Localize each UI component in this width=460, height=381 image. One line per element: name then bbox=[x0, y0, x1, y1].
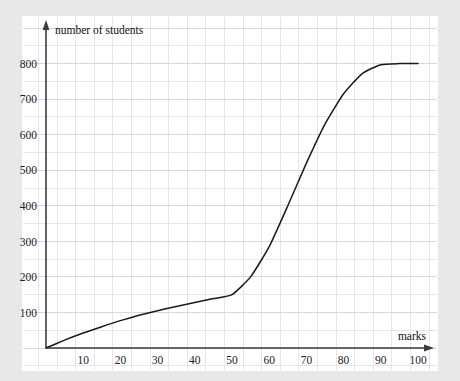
x-tick-label: 10 bbox=[77, 354, 89, 366]
x-tick-label: 90 bbox=[375, 354, 387, 366]
y-tick-label: 300 bbox=[20, 236, 38, 248]
y-axis-arrow bbox=[43, 20, 50, 30]
y-tick-label: 400 bbox=[20, 200, 38, 212]
y-tick-label: 100 bbox=[20, 307, 38, 319]
x-tick-label: 30 bbox=[152, 354, 164, 366]
x-axis-title: marks bbox=[398, 330, 427, 342]
y-tick-label: 200 bbox=[20, 271, 38, 283]
y-tick-label: 500 bbox=[20, 164, 38, 176]
y-tick-label: 700 bbox=[20, 93, 38, 105]
x-tick-label: 70 bbox=[301, 354, 313, 366]
axes bbox=[43, 20, 434, 351]
y-tick-label: 600 bbox=[20, 129, 38, 141]
y-tick-label: 800 bbox=[20, 58, 38, 70]
x-tick-label: 20 bbox=[115, 354, 127, 366]
x-tick-label: 80 bbox=[338, 354, 350, 366]
x-tick-label: 100 bbox=[409, 354, 427, 366]
grid-minor bbox=[23, 17, 437, 370]
x-tick-labels: 102030405060708090100 bbox=[77, 354, 426, 366]
chart-page: 102030405060708090100 100200300400500600… bbox=[0, 0, 460, 381]
cumulative-frequency-chart: 102030405060708090100 100200300400500600… bbox=[0, 0, 460, 381]
x-tick-label: 50 bbox=[226, 354, 238, 366]
x-tick-label: 40 bbox=[189, 354, 201, 366]
y-axis-title: number of students bbox=[55, 24, 144, 36]
x-tick-label: 60 bbox=[263, 354, 275, 366]
